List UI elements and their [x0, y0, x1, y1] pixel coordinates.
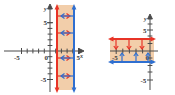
x-axis-label: x	[79, 53, 83, 59]
solution-band	[57, 5, 74, 90]
horizontal-inequality-graph: -5 0 5 -5 y	[88, 0, 175, 95]
y-axis-label: y	[143, 16, 147, 22]
x-tick-label-origin: 0	[45, 54, 49, 62]
y-tick-label-neg5: -5	[141, 77, 147, 85]
left-plot-svg: -5 0 5 5 -5 y x	[0, 0, 88, 95]
right-plot-svg: -5 0 5 -5 y	[88, 0, 175, 95]
y-axis-arrow	[148, 14, 153, 19]
vertical-inequality-graph: -5 0 5 5 -5 y x	[0, 0, 88, 95]
y-axis-arrow	[48, 4, 53, 9]
y-axis-label: y	[43, 6, 47, 12]
x-tick-label-neg5: -5	[14, 54, 20, 62]
y-tick-label-5: 5	[143, 27, 147, 35]
y-tick-label-neg5: -5	[41, 76, 47, 84]
figure-container: -5 0 5 5 -5 y x	[0, 0, 175, 95]
y-tick-label-5: 5	[44, 19, 48, 27]
